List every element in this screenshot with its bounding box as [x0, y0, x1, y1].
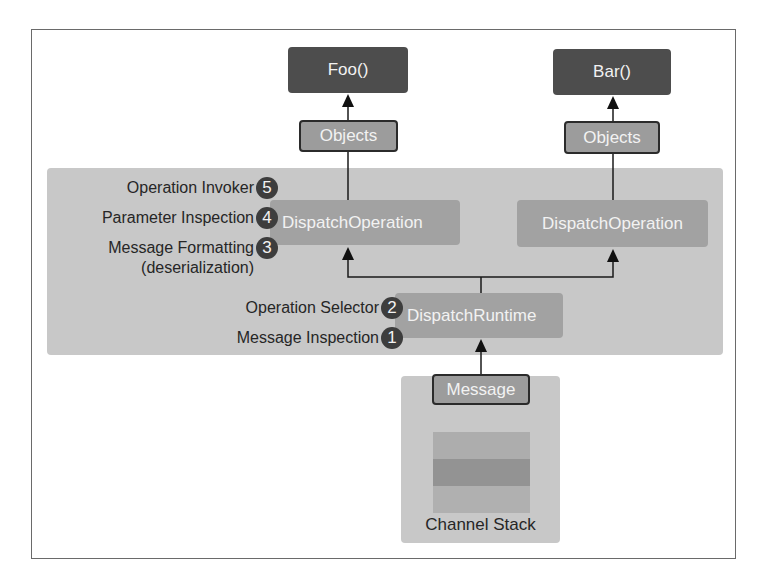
message-box: Message	[432, 374, 530, 405]
dispatch-operation-right-label: DispatchOperation	[542, 214, 683, 234]
channel-layer-1	[433, 432, 530, 459]
objects-label-right: Objects	[583, 128, 641, 148]
step-3-sublabel: (deserialization)	[141, 259, 254, 277]
step-3-badge: 3	[256, 237, 278, 259]
step-5-label: Operation Invoker	[127, 179, 254, 197]
step-3-number: 3	[262, 238, 271, 258]
bar-method-box: Bar()	[553, 49, 671, 95]
dispatch-operation-right: DispatchOperation	[517, 200, 708, 247]
step-4-badge: 4	[256, 207, 278, 229]
message-label: Message	[447, 380, 516, 400]
objects-label-left: Objects	[320, 126, 378, 146]
step-2-number: 2	[387, 298, 396, 318]
bar-method-label: Bar()	[593, 62, 631, 82]
foo-method-box: Foo()	[288, 47, 408, 93]
objects-box-left: Objects	[299, 120, 398, 152]
step-5-badge: 5	[256, 177, 278, 199]
channel-layer-3	[433, 486, 530, 513]
dispatch-runtime-label: DispatchRuntime	[407, 306, 536, 326]
step-1-label: Message Inspection	[237, 329, 379, 347]
step-4-number: 4	[262, 208, 271, 228]
step-3-label: Message Formatting	[108, 239, 254, 257]
objects-box-right: Objects	[564, 121, 660, 154]
step-2-badge: 2	[381, 297, 403, 319]
step-2-label: Operation Selector	[246, 299, 379, 317]
foo-method-label: Foo()	[328, 60, 369, 80]
dispatch-runtime-box: DispatchRuntime	[395, 293, 563, 338]
channel-stack-label: Channel Stack	[401, 516, 560, 534]
step-1-badge: 1	[381, 327, 403, 349]
channel-layer-2	[433, 459, 530, 486]
step-4-label: Parameter Inspection	[102, 209, 254, 227]
step-5-number: 5	[262, 178, 271, 198]
dispatch-operation-left-label: DispatchOperation	[282, 213, 423, 233]
step-1-number: 1	[387, 328, 396, 348]
dispatch-operation-left: DispatchOperation	[270, 200, 460, 245]
